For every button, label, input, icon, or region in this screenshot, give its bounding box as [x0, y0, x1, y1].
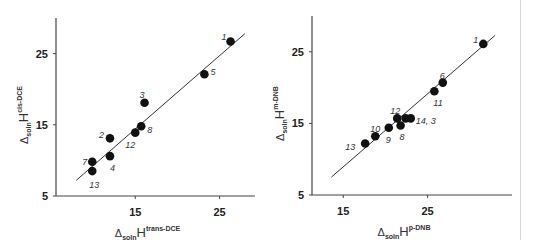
point-label: 11: [433, 98, 442, 108]
chart-svg: 51525152515381224713ΔsolnHtrans-DCEΔsoln…: [0, 0, 270, 249]
page-divider: [520, 0, 521, 240]
point-label: 2: [98, 130, 104, 140]
point-label: 12: [390, 106, 400, 116]
y-tick-label: 25: [36, 48, 48, 60]
point-label: 13: [89, 180, 99, 190]
data-point: [88, 167, 97, 176]
point-label: 14, 3: [416, 116, 436, 126]
x-tick-label: 15: [337, 205, 349, 217]
scatter-chart-dnb: 51525152516111214, 3891013ΔsolnHp-DNBΔso…: [265, 0, 535, 249]
point-label: 10: [370, 124, 380, 134]
x-tick-label: 25: [421, 205, 433, 217]
y-tick-label: 5: [42, 190, 48, 202]
point-label: 8: [400, 132, 405, 142]
point-label: 3: [140, 90, 145, 100]
data-point: [406, 114, 415, 123]
data-point: [137, 122, 146, 131]
y-tick-label: 15: [36, 119, 48, 131]
point-label: 1: [473, 35, 478, 45]
y-tick-label: 25: [292, 46, 304, 58]
x-tick-label: 25: [213, 206, 225, 218]
regression-line: [331, 35, 495, 177]
data-point: [479, 40, 488, 49]
point-label: 13: [345, 142, 355, 152]
point-label: 8: [147, 125, 152, 135]
chart-svg: 51525152516111214, 3891013ΔsolnHp-DNBΔso…: [265, 0, 535, 249]
data-point: [106, 134, 115, 143]
x-axis-title: ΔsolnHtrans-DCE: [115, 225, 181, 241]
x-axis-title: ΔsolnHp-DNB: [378, 224, 431, 240]
point-label: 9: [386, 135, 391, 145]
y-tick-label: 15: [292, 117, 304, 129]
data-point: [396, 121, 405, 130]
data-point: [361, 139, 370, 148]
data-point: [226, 37, 235, 46]
scatter-chart-dce: 51525152515381224713ΔsolnHtrans-DCEΔsoln…: [0, 0, 270, 249]
data-point: [200, 70, 209, 79]
data-point: [106, 152, 115, 161]
data-point: [88, 158, 97, 167]
data-point: [430, 87, 439, 96]
point-label: 1: [222, 32, 227, 42]
y-tick-label: 5: [298, 189, 304, 201]
y-axis-title: ΔsolnHm-DNB: [272, 86, 288, 141]
point-label: 12: [125, 140, 135, 150]
x-tick-label: 15: [129, 206, 141, 218]
point-label: 5: [210, 67, 216, 77]
point-label: 6: [440, 71, 445, 81]
point-label: 4: [110, 163, 115, 173]
data-point: [384, 123, 393, 132]
point-label: 7: [82, 157, 88, 167]
regression-line: [76, 34, 245, 181]
data-point: [131, 128, 140, 137]
y-axis-title: ΔsolnHcis-DCE: [16, 86, 32, 144]
